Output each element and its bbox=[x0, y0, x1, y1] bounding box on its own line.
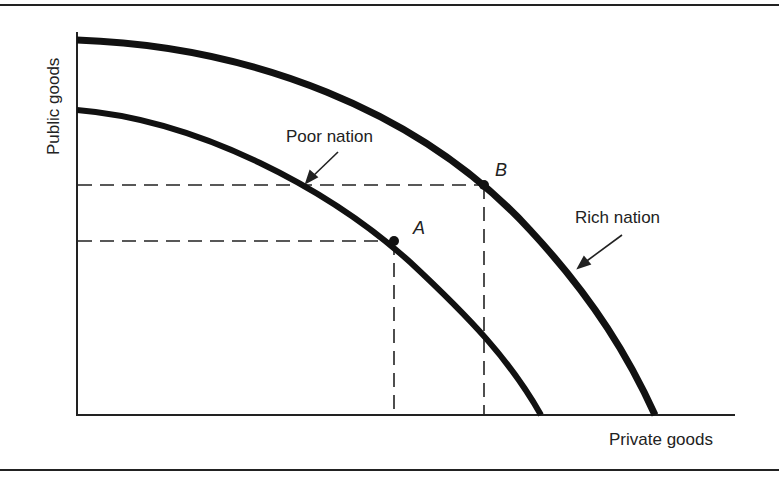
point-b-marker bbox=[479, 180, 489, 190]
poor-nation-label: Poor nation bbox=[286, 127, 373, 147]
x-axis-label: Private goods bbox=[609, 430, 713, 450]
point-b-label: B bbox=[495, 160, 507, 181]
point-a-label: A bbox=[413, 218, 425, 239]
poor-nation-curve bbox=[77, 110, 541, 415]
y-axis-label: Public goods bbox=[44, 58, 64, 155]
point-a-marker bbox=[389, 236, 399, 246]
ppf-diagram bbox=[0, 0, 779, 480]
rich-nation-label: Rich nation bbox=[575, 208, 660, 228]
